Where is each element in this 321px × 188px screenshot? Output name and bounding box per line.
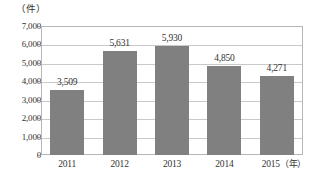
x-axis-unit-label: （年） [280, 159, 306, 169]
y-axis-tick-label: 6,000 [3, 40, 41, 49]
bar-chart: （件） 01,0002,0003,0004,0005,0006,0007,000… [0, 0, 321, 188]
y-axis-tick-mark [38, 155, 41, 156]
y-axis-tick-label: 7,000 [3, 22, 41, 31]
x-axis-tick-label: 2013 [163, 158, 181, 170]
x-axis: 20112012201320142015（年） [41, 158, 303, 174]
x-axis-tick-label: 2015（年） [262, 158, 307, 170]
y-axis-unit-label: （件） [16, 3, 45, 15]
y-axis-tick-label: 3,000 [3, 95, 41, 104]
bar-value-label: 5,631 [109, 38, 129, 48]
bar [260, 76, 294, 155]
bar [50, 90, 84, 155]
y-axis: 01,0002,0003,0004,0005,0006,0007,000 [0, 26, 41, 155]
x-axis-tick-label: 2014 [215, 158, 233, 170]
bar-value-label: 4,271 [267, 63, 287, 73]
bar-value-label: 3,509 [57, 77, 77, 87]
y-axis-tick-label: 4,000 [3, 77, 41, 86]
bar [207, 66, 241, 155]
bar-group: 3,509 [41, 26, 93, 155]
bar-value-label: 5,930 [162, 33, 182, 43]
y-axis-tick-label: 1,000 [3, 132, 41, 141]
bar [155, 46, 189, 155]
y-axis-tick-label: 5,000 [3, 58, 41, 67]
x-axis-tick-label: 2012 [110, 158, 128, 170]
bar-group: 5,930 [146, 26, 198, 155]
bar-value-label: 4,850 [214, 53, 234, 63]
bars-layer: 3,5095,6315,9304,8504,271 [41, 26, 303, 155]
y-axis-tick-label: 2,000 [3, 114, 41, 123]
y-axis-tick-label: 0 [3, 151, 41, 160]
bar-group: 4,850 [198, 26, 250, 155]
bar-group: 5,631 [93, 26, 145, 155]
bar-group: 4,271 [251, 26, 303, 155]
x-axis-tick-label: 2011 [58, 158, 76, 170]
bar [103, 51, 137, 155]
